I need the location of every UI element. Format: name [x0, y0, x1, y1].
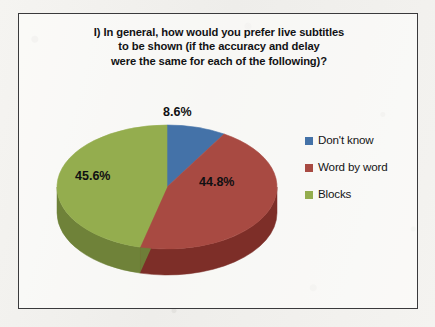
- slice-label-blocks: 45.6%: [75, 169, 110, 183]
- legend-swatch-icon-dont-know: [305, 137, 313, 145]
- chart-title-line-3: were the same for each of the following)…: [33, 54, 405, 68]
- chart-title: I) In general, how would you prefer live…: [33, 25, 405, 68]
- pie-chart-svg: [39, 99, 309, 279]
- legend-item-blocks[interactable]: Blocks: [305, 187, 413, 201]
- chart-legend: Don't know Word by word Blocks: [305, 133, 413, 214]
- legend-label-dont-know: Don't know: [318, 133, 374, 147]
- chart-title-line-2: to be shown (if the accuracy and delay: [33, 39, 405, 53]
- legend-label-word-by-word: Word by word: [318, 160, 388, 174]
- pie-chart: 8.6% 44.8% 45.6%: [39, 99, 309, 279]
- chart-title-line-1: I) In general, how would you prefer live…: [33, 25, 405, 39]
- legend-label-blocks: Blocks: [318, 187, 351, 201]
- chart-frame: I) In general, how would you prefer live…: [18, 13, 418, 309]
- slice-label-dont-know: 8.6%: [163, 105, 192, 119]
- legend-swatch-icon-blocks: [305, 191, 313, 199]
- legend-item-dont-know[interactable]: Don't know: [305, 133, 413, 147]
- pie-slices-group: [57, 125, 277, 275]
- legend-item-word-by-word[interactable]: Word by word: [305, 160, 413, 174]
- legend-swatch-icon-word-by-word: [305, 164, 313, 172]
- slice-label-word-by-word: 44.8%: [199, 175, 234, 189]
